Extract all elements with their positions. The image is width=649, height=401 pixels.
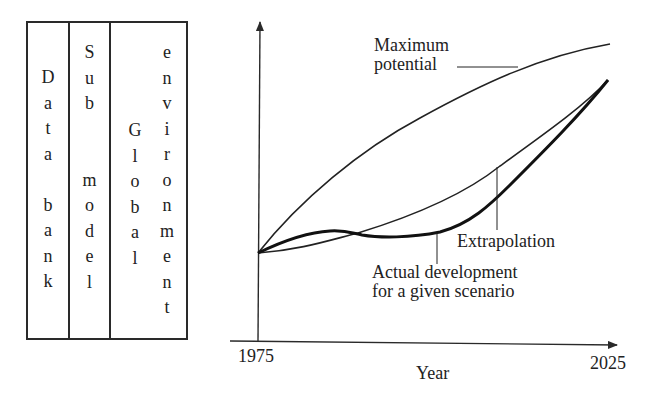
extrapolation-label: Extrapolation xyxy=(457,232,555,250)
actual-development-label-line2: for a given scenario xyxy=(372,282,514,300)
extrapolation-curve xyxy=(258,80,608,253)
x-tick-2025: 2025 xyxy=(590,354,626,372)
x-axis xyxy=(230,341,617,345)
y-axis xyxy=(258,22,260,341)
maximum-potential-label-line1: Maximum xyxy=(374,36,449,54)
development-chart xyxy=(0,0,649,401)
maximum-potential-curve xyxy=(258,44,610,253)
actual-development-curve xyxy=(258,80,608,253)
maximum-potential-label-line2: potential xyxy=(374,55,437,73)
actual-development-label-line1: Actual development xyxy=(372,263,517,281)
x-tick-1975: 1975 xyxy=(238,347,274,365)
x-axis-title: Year xyxy=(416,364,449,382)
